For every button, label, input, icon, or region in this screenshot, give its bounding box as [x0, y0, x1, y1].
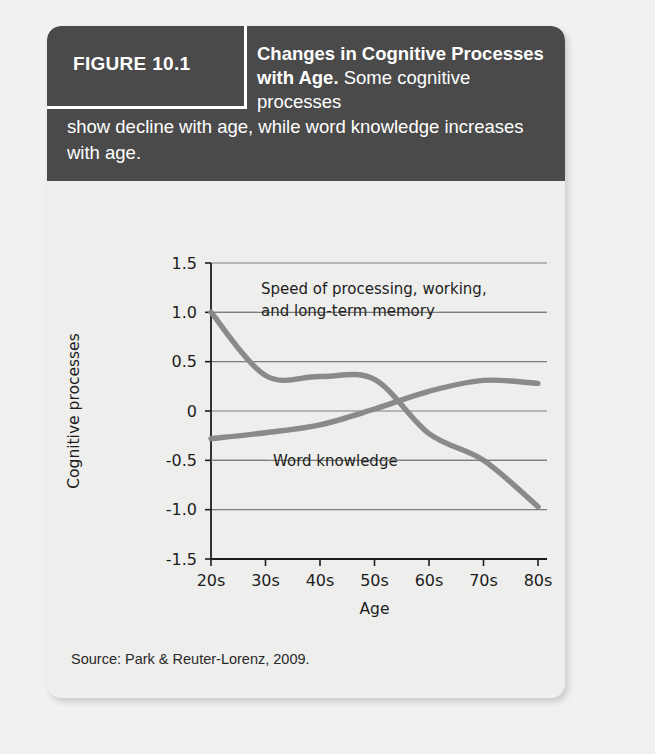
annotation-word-knowledge: Word knowledge — [273, 452, 398, 470]
annotation-speed-line1: Speed of processing, working, — [261, 280, 487, 298]
x-tick-label: 50s — [360, 571, 389, 590]
y-tick-label: -1.5 — [166, 550, 197, 569]
line-chart: 1.51.00.50-0.5-1.0-1.5 20s30s40s50s60s70… — [47, 181, 565, 638]
x-tick-labels: 20s30s40s50s60s70s80s — [197, 571, 553, 590]
annotation-speed-line2: and long-term memory — [261, 302, 435, 320]
figure-page: FIGURE 10.1 Changes in Cognitive Process… — [0, 0, 655, 754]
figure-header-band: FIGURE 10.1 Changes in Cognitive Process… — [47, 26, 565, 181]
y-tick-label: 0 — [187, 402, 197, 421]
figure-number-box: FIGURE 10.1 — [47, 26, 247, 109]
figure-card: FIGURE 10.1 Changes in Cognitive Process… — [47, 26, 565, 698]
x-tick-label: 60s — [415, 571, 444, 590]
figure-number-label: FIGURE 10.1 — [73, 53, 190, 75]
y-tick-label: -1.0 — [166, 500, 197, 519]
y-tick-label: 1.5 — [172, 254, 197, 273]
y-tick-labels: 1.51.00.50-0.5-1.0-1.5 — [166, 254, 197, 569]
y-tick-label: 0.5 — [172, 352, 197, 371]
y-tick-label: 1.0 — [172, 303, 197, 322]
chart-panel: 1.51.00.50-0.5-1.0-1.5 20s30s40s50s60s70… — [47, 181, 565, 638]
y-tick-label: -0.5 — [166, 451, 197, 470]
y-axis-label: Cognitive processes — [65, 333, 83, 488]
series-curves — [211, 312, 538, 506]
series-line-2 — [211, 380, 538, 438]
x-tick-label: 20s — [197, 571, 226, 590]
source-citation: Source: Park & Reuter-Lorenz, 2009. — [71, 651, 310, 667]
x-tick-label: 40s — [306, 571, 335, 590]
figure-caption-title: Changes in Cognitive Processes with Age.… — [257, 42, 557, 114]
x-axis-label: Age — [360, 600, 390, 618]
figure-caption-body: show decline with age, while word knowle… — [67, 114, 549, 166]
x-tick-label: 80s — [524, 571, 553, 590]
x-tick-label: 70s — [469, 571, 498, 590]
x-tick-label: 30s — [251, 571, 280, 590]
